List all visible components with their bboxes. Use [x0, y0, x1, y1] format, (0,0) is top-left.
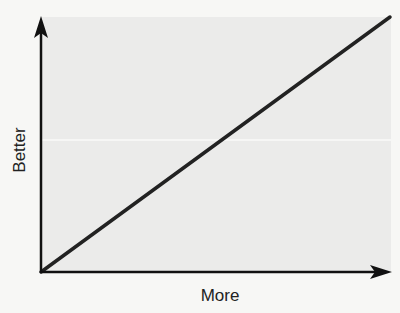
y-axis-label: Better [10, 127, 30, 172]
x-axis-label: More [201, 286, 240, 306]
chart-svg [0, 0, 400, 313]
trend-line [41, 17, 390, 272]
